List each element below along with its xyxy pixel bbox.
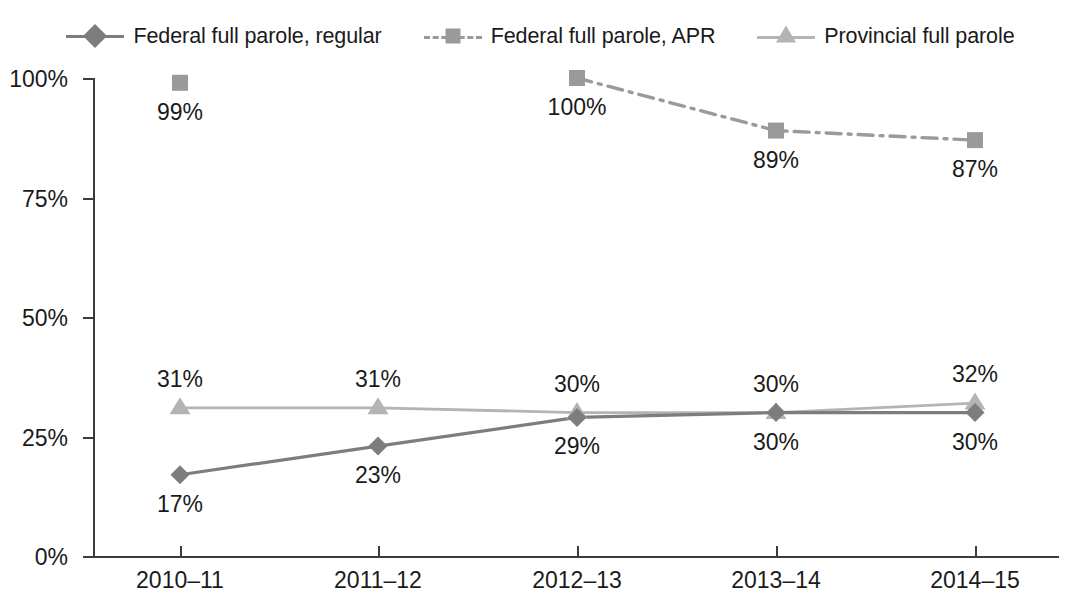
data-point-label: 100% [548, 94, 607, 121]
data-point-label: 23% [355, 462, 401, 489]
data-point-label: 30% [952, 428, 998, 455]
data-point-label: 89% [753, 146, 799, 173]
plot-area: 100% 75% 50% 25% 0% 2010–11 2011–12 2012… [0, 0, 1081, 612]
data-point-label: 99% [157, 98, 203, 125]
data-point-label: 32% [952, 361, 998, 388]
data-point-label: 30% [753, 428, 799, 455]
data-point-label: 31% [157, 365, 203, 392]
data-point-label: 29% [554, 433, 600, 460]
series-layer [0, 0, 1081, 612]
data-point-label: 30% [554, 370, 600, 397]
line-chart: Federal full parole, regular Federal ful… [0, 0, 1081, 612]
data-point-label: 87% [952, 156, 998, 183]
data-point-label: 17% [157, 490, 203, 517]
data-point-label: 30% [753, 370, 799, 397]
data-point-label: 31% [355, 365, 401, 392]
